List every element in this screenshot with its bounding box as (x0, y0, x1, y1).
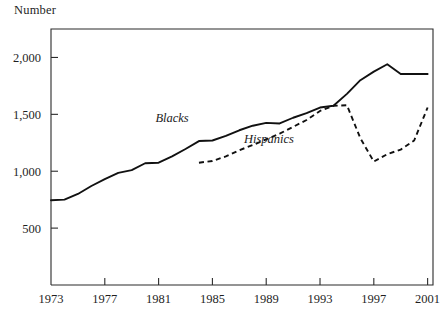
axes-group (51, 29, 433, 285)
x-tick-label: 2001 (415, 292, 440, 306)
series-line-blacks (51, 64, 428, 200)
x-tick-label: 1981 (146, 292, 171, 306)
line-chart-plot: 5001,0001,5002,000 197319771981198519891… (0, 0, 448, 321)
series-label-group: BlacksHispanics (155, 111, 294, 145)
y-tick-label: 1,000 (13, 165, 41, 179)
chart-page: Number 5001,0001,5002,000 19731977198119… (0, 0, 448, 321)
series-label-hispanics: Hispanics (243, 132, 294, 146)
x-tick-label: 1989 (254, 292, 279, 306)
x-tick-label: 1973 (39, 292, 64, 306)
axis-frame (51, 29, 433, 285)
y-tick-label: 500 (22, 222, 41, 236)
x-tick-label: 1977 (92, 292, 117, 306)
series-label-blacks: Blacks (155, 111, 188, 125)
y-tick-label: 1,500 (13, 108, 41, 122)
y-tick-label: 2,000 (13, 51, 41, 65)
x-tick-group: 19731977198119851989199319972001 (39, 278, 441, 306)
series-line-hispanics (199, 105, 428, 162)
series-group (51, 64, 428, 200)
x-tick-label: 1993 (308, 292, 333, 306)
x-tick-label: 1997 (361, 292, 386, 306)
x-tick-label: 1985 (200, 292, 225, 306)
